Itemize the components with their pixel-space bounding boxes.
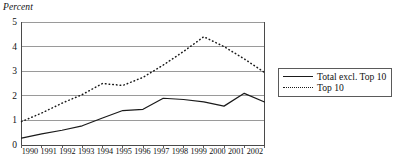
- x-tick-label-7: 1997: [152, 147, 171, 157]
- x-tick-label-4: 1994: [96, 147, 115, 157]
- legend-item-total-excl-top-10: Total excl. Top 10: [283, 71, 388, 82]
- axis-lines: [22, 22, 265, 145]
- x-tick-label-8: 1998: [171, 147, 190, 157]
- gridlines: [22, 22, 265, 145]
- x-tick-label-1: 1991: [39, 147, 58, 157]
- x-tick-label-2: 1992: [58, 147, 77, 157]
- legend-swatch-dotted-line-icon: [283, 82, 313, 93]
- x-tick-label-10: 2000: [208, 147, 227, 157]
- legend-label-1: Top 10: [317, 82, 344, 93]
- x-tick-label-9: 1999: [189, 147, 208, 157]
- x-tick-label-12: 2002: [246, 147, 265, 157]
- x-tick-label-3: 1993: [77, 147, 96, 157]
- chart-legend: Total excl. Top 10 Top 10: [278, 68, 392, 97]
- x-tick-label-5: 1995: [114, 147, 133, 157]
- legend-swatch-solid-line-icon: [283, 71, 313, 82]
- x-tick-label-11: 2001: [227, 147, 246, 157]
- legend-item-top-10: Top 10: [283, 82, 388, 93]
- data-series-layer: [22, 37, 265, 138]
- legend-label-0: Total excl. Top 10: [317, 71, 386, 82]
- x-axis-tick-labels: 1990199119921993199419951996199719981999…: [21, 147, 264, 161]
- line-chart-figure: Percent 5 4 3 2 1 0 19901991199219931994…: [0, 0, 394, 163]
- x-tick-label-6: 1996: [133, 147, 152, 157]
- series-line-0: [22, 93, 265, 138]
- x-tick-label-0: 1990: [21, 147, 40, 157]
